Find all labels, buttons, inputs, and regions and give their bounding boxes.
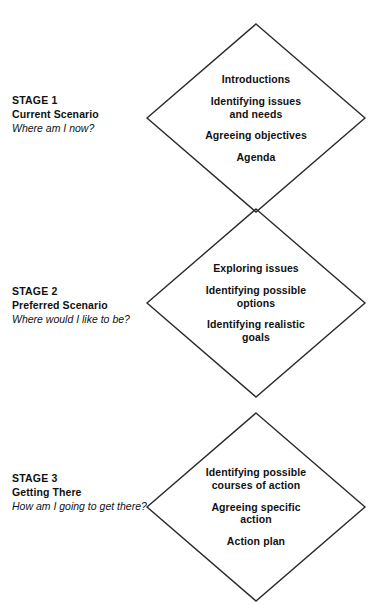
stage-3-number: STAGE 3 (12, 472, 152, 486)
stage-label-1: STAGE 1 Current Scenario Where am I now? (12, 94, 152, 136)
stage-label-2: STAGE 2 Preferred Scenario Where would I… (12, 285, 152, 327)
stage-2-number: STAGE 2 (12, 285, 152, 299)
stage-1-number: STAGE 1 (12, 94, 152, 108)
diamond-text-2: Exploring issues Identifying possibleopt… (171, 262, 341, 344)
diamond-2-item-1: Exploring issues (171, 262, 341, 275)
stages-diagram: STAGE 1 Current Scenario Where am I now?… (0, 0, 376, 613)
stage-1-question: Where am I now? (12, 122, 152, 136)
stage-label-3: STAGE 3 Getting There How am I going to … (12, 472, 152, 514)
stage-2-question: Where would I like to be? (12, 313, 152, 327)
diamond-3-item-3: Action plan (171, 535, 341, 548)
diamond-2-item-2: Identifying possibleoptions (171, 284, 341, 310)
diamond-2-item-3: Identifying realisticgoals (171, 318, 341, 344)
stage-1-name: Current Scenario (12, 108, 152, 122)
stage-3-name: Getting There (12, 486, 152, 500)
diamond-text-1: Introductions Identifying issuesand need… (171, 73, 341, 164)
diamond-text-3: Identifying possiblecourses of action Ag… (171, 466, 341, 548)
diamond-1-item-3: Agreeing objectives (171, 129, 341, 142)
diamond-1-item-1: Introductions (171, 73, 341, 86)
diamond-1-item-2: Identifying issuesand needs (171, 94, 341, 120)
stage-2-name: Preferred Scenario (12, 299, 152, 313)
stage-3-question: How am I going to get there? (12, 500, 152, 514)
diamond-1-item-4: Agenda (171, 151, 341, 164)
diamond-3-item-2: Agreeing specificaction (171, 501, 341, 527)
diamond-3-item-1: Identifying possiblecourses of action (171, 466, 341, 492)
